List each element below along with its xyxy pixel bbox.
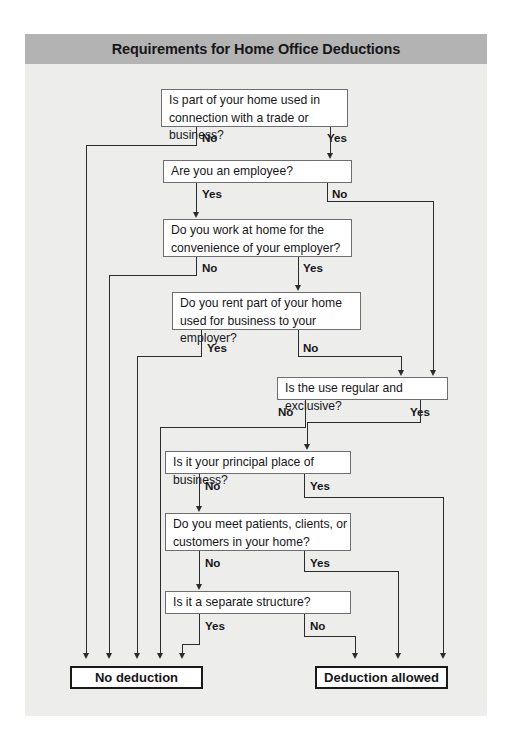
connector-q8-yes-horizontal bbox=[182, 644, 200, 645]
arrowhead-q3-no-to-no-deduction bbox=[106, 653, 112, 659]
terminal-node-deduction-allowed[interactable]: Deduction allowed bbox=[315, 666, 448, 689]
connector-q3-no-descend bbox=[109, 275, 110, 653]
branch-label-q6-no: No bbox=[205, 479, 220, 492]
arrowhead-q2-yes-to-q3 bbox=[193, 212, 199, 218]
arrowhead-q7-no-to-q8 bbox=[196, 584, 202, 590]
branch-label-q6-yes: Yes bbox=[310, 479, 330, 492]
connector-q6-yes-descend bbox=[443, 497, 444, 653]
branch-label-q4-no: No bbox=[303, 341, 318, 354]
connector-q8-no-stub bbox=[304, 614, 305, 636]
connector-q5-no-stub bbox=[305, 400, 306, 427]
branch-label-q7-no: No bbox=[205, 556, 220, 569]
arrowhead-q1-yes-to-q2 bbox=[327, 153, 333, 159]
connector-q8-no-horizontal bbox=[304, 636, 356, 637]
terminal-node-no-deduction[interactable]: No deduction bbox=[70, 666, 203, 689]
arrowhead-q7-yes-to-deduction-allowed bbox=[395, 653, 401, 659]
connector-q1-yes bbox=[330, 127, 331, 154]
decision-node-principal-place-of-business[interactable]: Is it your principal place of business? bbox=[165, 451, 351, 474]
connector-q1-no-horizontal bbox=[86, 145, 197, 146]
decision-node-meet-patients-clients[interactable]: Do you meet patients, clients, or custom… bbox=[165, 513, 351, 551]
arrowhead-q5-yes-to-q6 bbox=[304, 444, 310, 450]
branch-label-q2-no: No bbox=[332, 187, 347, 200]
connector-q2-no-horizontal bbox=[327, 201, 434, 202]
connector-q5-yes-descend bbox=[307, 422, 308, 445]
connector-q4-yes-stub bbox=[201, 330, 202, 356]
page-title: Requirements for Home Office Deductions bbox=[25, 34, 487, 64]
connector-q4-yes-descend bbox=[137, 356, 138, 653]
branch-label-q2-yes: Yes bbox=[202, 187, 222, 200]
connector-q6-no bbox=[199, 474, 200, 507]
connector-q7-yes-descend bbox=[398, 571, 399, 653]
decision-node-rent-part-of-home[interactable]: Do you rent part of your home used for b… bbox=[172, 292, 361, 330]
arrowhead-q8-no-to-deduction-allowed bbox=[352, 653, 358, 659]
arrowhead-q6-yes-to-deduction-allowed bbox=[440, 653, 446, 659]
connector-q5-no-descend bbox=[160, 427, 161, 653]
connector-q2-no-stub bbox=[327, 183, 328, 201]
connector-q7-yes-horizontal bbox=[304, 571, 399, 572]
connector-q7-yes-stub bbox=[304, 551, 305, 571]
connector-q3-yes bbox=[298, 257, 299, 286]
connector-q8-no-descend bbox=[355, 636, 356, 653]
connector-q1-no-stub bbox=[196, 127, 197, 145]
branch-label-q8-yes: Yes bbox=[205, 619, 225, 632]
connector-q2-yes bbox=[196, 183, 197, 213]
arrowhead-q3-yes-to-q4 bbox=[295, 285, 301, 291]
decision-node-are-you-employee[interactable]: Are you an employee? bbox=[163, 160, 352, 183]
branch-label-q5-no: No bbox=[278, 405, 293, 418]
connector-q5-yes-horizontal bbox=[307, 422, 421, 423]
connector-q3-no-horizontal bbox=[109, 275, 197, 276]
branch-label-q3-yes: Yes bbox=[303, 261, 323, 274]
arrowhead-q5-no-to-no-deduction bbox=[157, 653, 163, 659]
decision-node-trade-or-business[interactable]: Is part of your home used in connection … bbox=[161, 89, 348, 127]
arrowhead-q4-no-to-q5 bbox=[398, 370, 404, 376]
branch-label-q7-yes: Yes bbox=[310, 556, 330, 569]
connector-q4-no-stub bbox=[298, 330, 299, 356]
decision-node-regular-and-exclusive[interactable]: Is the use regular and exclusive? bbox=[277, 377, 448, 400]
connector-q5-yes-stub bbox=[420, 400, 421, 422]
branch-label-q3-no: No bbox=[202, 261, 217, 274]
arrowhead-q2-no-to-q5 bbox=[430, 370, 436, 376]
branch-label-q8-no: No bbox=[310, 619, 325, 632]
decision-node-separate-structure[interactable]: Is it a separate structure? bbox=[165, 591, 351, 614]
connector-q4-yes-horizontal bbox=[137, 356, 202, 357]
connector-q4-no-descend bbox=[401, 356, 402, 371]
connector-q5-no-horizontal bbox=[160, 427, 306, 428]
branch-label-q1-no: No bbox=[202, 131, 217, 144]
connector-q7-no bbox=[199, 551, 200, 585]
arrowhead-q6-no-to-q7 bbox=[196, 506, 202, 512]
connector-q1-no-descend bbox=[86, 145, 87, 653]
connector-q6-yes-stub bbox=[304, 474, 305, 497]
connector-q8-yes-descend bbox=[182, 644, 183, 653]
connector-q2-no-descend bbox=[433, 201, 434, 371]
decision-node-convenience-of-employer[interactable]: Do you work at home for the convenience … bbox=[163, 219, 352, 257]
branch-label-q4-yes: Yes bbox=[207, 341, 227, 354]
arrowhead-q8-yes-to-no-deduction bbox=[179, 653, 185, 659]
connector-q8-yes-stub bbox=[199, 614, 200, 644]
connector-q3-no-stub bbox=[196, 257, 197, 275]
connector-q4-no-horizontal bbox=[298, 356, 402, 357]
connector-q6-yes-horizontal bbox=[304, 497, 444, 498]
flowchart-page: Requirements for Home Office Deductions … bbox=[0, 0, 512, 736]
arrowhead-q1-no-to-no-deduction bbox=[83, 653, 89, 659]
arrowhead-q4-yes-to-no-deduction bbox=[134, 653, 140, 659]
